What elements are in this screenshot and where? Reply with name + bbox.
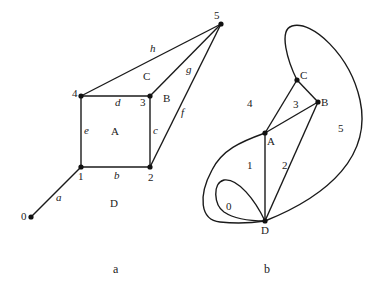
- face-label-3: 3: [293, 98, 299, 110]
- edge-A-B: [265, 102, 318, 133]
- face-label-4: 4: [247, 97, 253, 109]
- face-label-5: 5: [338, 122, 344, 134]
- node-0: [28, 214, 33, 219]
- node-label-5: 5: [214, 9, 220, 21]
- face-label-2: 2: [282, 159, 288, 171]
- edge-label-e: e: [84, 124, 89, 136]
- edge-f: [150, 24, 221, 167]
- edge-label-c: c: [153, 124, 158, 136]
- dual-graph-figure: 0 1 2 3 4 5 a b c d e f g h A B C D a: [0, 0, 377, 286]
- edge-label-d: d: [115, 96, 121, 108]
- edge-h: [81, 24, 221, 96]
- face-label-1: 1: [247, 159, 253, 171]
- face-label-C: C: [143, 70, 150, 82]
- face-label-A: A: [111, 125, 119, 137]
- node-3: [147, 93, 152, 98]
- edge-g: [150, 24, 221, 96]
- edge-label-b: b: [114, 169, 120, 181]
- node-label-A: A: [267, 135, 275, 147]
- edge-C-D-outer-curve: [265, 25, 362, 221]
- node-label-0: 0: [21, 210, 27, 222]
- node-4: [78, 93, 83, 98]
- edge-C-B: [297, 80, 318, 102]
- node-label-4: 4: [72, 87, 78, 99]
- edge-label-a: a: [56, 191, 62, 203]
- node-B: [315, 99, 320, 104]
- node-5: [218, 21, 223, 26]
- node-1: [78, 164, 83, 169]
- face-label-D: D: [110, 197, 118, 209]
- caption-b: b: [264, 262, 270, 276]
- node-label-D: D: [261, 224, 269, 236]
- face-label-B: B: [163, 92, 170, 104]
- self-loop-D: [216, 180, 265, 221]
- figure-b-graph: A B C D 0 1 2 3 4 5 b: [203, 25, 362, 276]
- edge-label-f: f: [181, 106, 186, 118]
- node-label-1: 1: [78, 170, 84, 182]
- node-2: [147, 164, 152, 169]
- face-label-0: 0: [226, 200, 232, 212]
- figure-a-graph: 0 1 2 3 4 5 a b c d e f g h A B C D a: [21, 9, 224, 276]
- node-C: [294, 77, 299, 82]
- edge-A-D-outer-curve: [203, 133, 265, 223]
- edge-label-h: h: [150, 42, 156, 54]
- caption-a: a: [113, 262, 119, 276]
- node-label-3: 3: [140, 96, 146, 108]
- edge-label-g: g: [186, 63, 192, 75]
- node-label-B: B: [321, 96, 328, 108]
- node-label-2: 2: [148, 171, 154, 183]
- node-label-C: C: [300, 69, 307, 81]
- node-D: [262, 218, 267, 223]
